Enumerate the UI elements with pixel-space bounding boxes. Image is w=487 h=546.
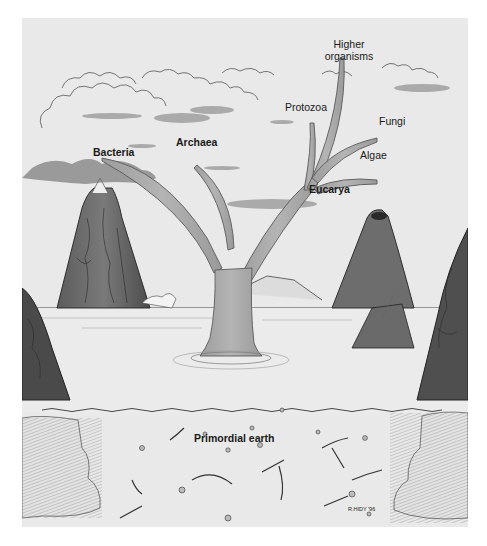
dark-cloud-wisps <box>82 84 450 209</box>
landscape-illustration <box>22 18 468 527</box>
label-higher-organisms-line2: organisms <box>319 50 379 62</box>
label-primordial-earth: Primordial earth <box>194 432 275 444</box>
label-bacteria: Bacteria <box>93 146 134 158</box>
label-protozoa: Protozoa <box>285 101 327 113</box>
label-algae: Algae <box>360 149 387 161</box>
microbe-cocci <box>140 408 372 521</box>
right-stromatolites <box>390 412 468 523</box>
label-eucarya: Eucarya <box>309 183 350 195</box>
left-stromatolites <box>22 416 102 518</box>
artist-signature: R.HIDY '96 <box>348 506 375 512</box>
illustration-panel: Higher organisms Protozoa Fungi Algae Eu… <box>22 18 468 527</box>
label-higher-organisms-line1: Higher <box>319 38 379 50</box>
label-archaea: Archaea <box>176 136 217 148</box>
label-fungi: Fungi <box>379 115 405 127</box>
label-higher-organisms: Higher organisms <box>319 38 379 62</box>
